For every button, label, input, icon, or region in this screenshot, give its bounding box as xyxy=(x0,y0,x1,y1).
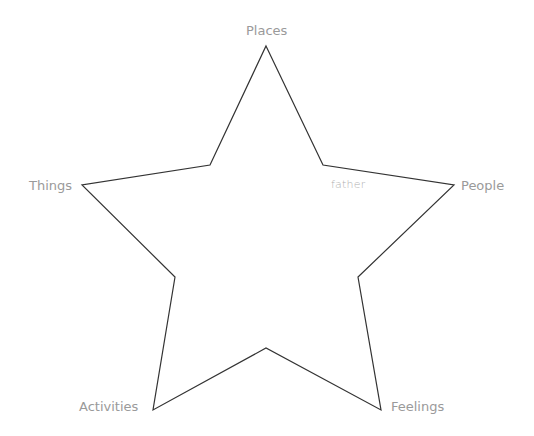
label-people: People xyxy=(461,178,504,193)
label-places: Places xyxy=(246,23,287,38)
label-activities: Activities xyxy=(79,399,138,414)
label-feelings: Feelings xyxy=(391,399,444,414)
star-shape xyxy=(0,0,534,436)
entry-father[interactable]: father xyxy=(331,178,365,191)
label-things: Things xyxy=(29,178,72,193)
